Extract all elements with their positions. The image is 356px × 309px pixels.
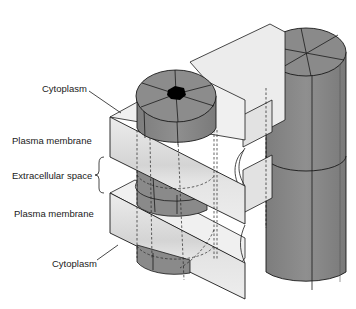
label-cytoplasm-bottom: Cytoplasm [52,259,97,269]
label-extracellular-space: Extracellular space [12,171,92,181]
gap-junction-diagram: Cytoplasm Plasma membrane Extracellular … [0,0,356,309]
label-plasma-membrane-top: Plasma membrane [12,136,92,146]
label-plasma-membrane-bottom: Plasma membrane [14,209,94,219]
top-connexon [136,70,216,145]
label-cytoplasm-top: Cytoplasm [42,84,87,94]
